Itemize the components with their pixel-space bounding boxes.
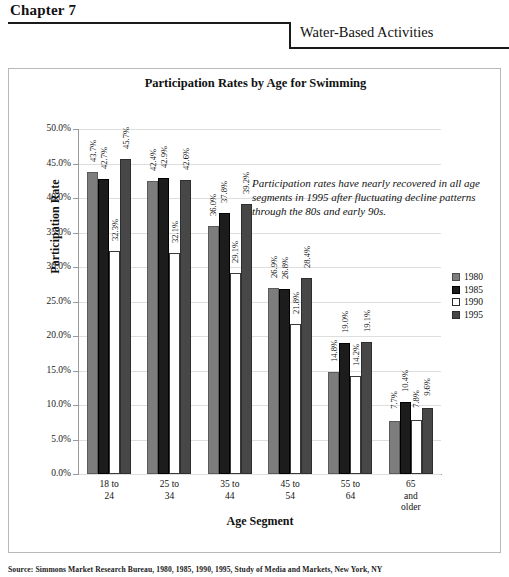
y-axis-tick-label: 35.0% — [9, 227, 71, 237]
bar-group: 36.0%37.8%29.1%39.2% — [200, 129, 260, 474]
bar-value-label: 19.1% — [362, 310, 372, 332]
bar-1990-3[interactable] — [290, 324, 301, 474]
bar-slot: 29.1% — [230, 129, 241, 474]
bar-value-label: 32.3% — [110, 219, 120, 241]
bar-1990-2[interactable] — [230, 273, 241, 474]
y-axis-tick — [73, 474, 78, 475]
y-axis-tick-label: 10.0% — [9, 399, 71, 409]
bar-1980-4[interactable] — [328, 372, 339, 474]
y-axis-tick — [73, 440, 78, 441]
chart-container: Participation Rates by Age for Swimming … — [8, 68, 501, 553]
y-axis-tick-label: 45.0% — [9, 158, 71, 168]
bar-value-label: 26.9% — [269, 256, 279, 278]
legend-item-1995[interactable]: 1995 — [452, 309, 504, 322]
y-axis-tick — [73, 267, 78, 268]
chart-annotation: Participation rates have nearly recovere… — [252, 176, 497, 218]
bar-1995-3[interactable] — [301, 278, 312, 474]
legend-item-1985[interactable]: 1985 — [452, 284, 504, 297]
bar-1985-1[interactable] — [158, 178, 169, 474]
bar-slot: 42.9% — [158, 129, 169, 474]
bar-slot: 32.3% — [109, 129, 120, 474]
bar-slot: 36.0% — [208, 129, 219, 474]
bar-1980-3[interactable] — [268, 288, 279, 474]
bar-slot: 37.8% — [219, 129, 230, 474]
header-rule-vertical — [289, 22, 291, 49]
x-axis-tick-label-line: and — [371, 491, 451, 503]
bar-1995-4[interactable] — [361, 342, 372, 474]
bar-1980-1[interactable] — [147, 181, 158, 474]
y-axis-tick — [73, 164, 78, 165]
bar-value-label: 19.0% — [340, 311, 350, 333]
x-axis-tick-label-line: older — [371, 502, 451, 514]
bar-value-label: 43.7% — [88, 141, 98, 163]
bar-slot: 42.7% — [98, 129, 109, 474]
bar-1995-5[interactable] — [422, 408, 433, 474]
bar-value-label: 42.4% — [148, 149, 158, 171]
y-axis-tick — [73, 129, 78, 130]
bar-1980-0[interactable] — [87, 172, 98, 474]
y-axis-tick-label: 20.0% — [9, 330, 71, 340]
header-rule-left — [8, 22, 290, 24]
x-axis-tick-label-line: 65 — [371, 479, 451, 491]
bar-1995-0[interactable] — [120, 159, 131, 474]
bar-value-label: 42.6% — [181, 148, 191, 170]
legend-label: 1980 — [464, 272, 483, 282]
bar-value-label: 39.2% — [241, 172, 251, 194]
bar-1980-5[interactable] — [389, 421, 400, 474]
legend-label: 1990 — [464, 297, 483, 307]
bar-1990-5[interactable] — [411, 420, 422, 474]
bar-value-label: 42.9% — [159, 146, 169, 168]
bar-value-label: 7.7% — [389, 391, 399, 409]
source-note: Source: Simmons Market Research Bureau, … — [8, 565, 508, 574]
section-title: Water-Based Activities — [300, 24, 433, 41]
chapter-label: Chapter 7 — [10, 2, 76, 19]
legend-swatch-icon — [452, 298, 460, 306]
bar-slot: 45.7% — [120, 129, 131, 474]
page-header: Chapter 7 Water-Based Activities — [0, 0, 509, 52]
bar-value-label: 14.2% — [351, 344, 361, 366]
bar-1985-0[interactable] — [98, 179, 109, 474]
bar-1990-0[interactable] — [109, 251, 120, 474]
x-axis-tick-label: 65andolder — [371, 479, 451, 514]
bar-value-label: 28.4% — [302, 246, 312, 268]
bar-1985-5[interactable] — [400, 402, 411, 474]
legend-label: 1985 — [464, 285, 483, 295]
bar-1990-4[interactable] — [350, 376, 361, 474]
y-axis-tick — [73, 405, 78, 406]
chart-title: Participation Rates by Age for Swimming — [9, 76, 502, 91]
y-axis-tick — [73, 302, 78, 303]
bar-value-label: 45.7% — [121, 127, 131, 149]
bar-slot: 39.2% — [241, 129, 252, 474]
bar-1985-2[interactable] — [219, 213, 230, 474]
legend-item-1990[interactable]: 1990 — [452, 296, 504, 309]
bar-group: 43.7%42.7%32.3%45.7% — [79, 129, 139, 474]
bar-1995-2[interactable] — [241, 204, 252, 474]
bar-value-label: 9.6% — [422, 378, 432, 396]
bar-value-label: 14.8% — [329, 340, 339, 362]
legend-swatch-icon — [452, 311, 460, 319]
bar-1995-1[interactable] — [180, 180, 191, 474]
bar-slot: 42.6% — [180, 129, 191, 474]
bar-value-label: 7.8% — [411, 390, 421, 408]
y-axis-tick-label: 30.0% — [9, 261, 71, 271]
y-axis-tick-label: 0.0% — [9, 468, 71, 478]
legend-swatch-icon — [452, 286, 460, 294]
legend-item-1980[interactable]: 1980 — [452, 271, 504, 284]
y-axis-tick-label: 50.0% — [9, 123, 71, 133]
y-axis-tick — [73, 371, 78, 372]
bar-1990-1[interactable] — [169, 253, 180, 474]
bar-1985-4[interactable] — [339, 343, 350, 474]
y-axis-tick-label: 5.0% — [9, 434, 71, 444]
bar-value-label: 21.8% — [291, 292, 301, 314]
bar-value-label: 32.1% — [170, 221, 180, 243]
bar-1980-2[interactable] — [208, 226, 219, 474]
bar-slot: 32.1% — [169, 129, 180, 474]
bar-1985-3[interactable] — [279, 289, 290, 474]
chart-legend: 1980198519901995 — [452, 271, 504, 321]
x-axis-title: Age Segment — [79, 514, 441, 529]
bar-group: 42.4%42.9%32.1%42.6% — [139, 129, 199, 474]
y-axis-tick — [73, 233, 78, 234]
y-axis-tick-label: 40.0% — [9, 192, 71, 202]
bar-value-label: 36.0% — [208, 194, 218, 216]
bar-value-label: 26.8% — [280, 257, 290, 279]
